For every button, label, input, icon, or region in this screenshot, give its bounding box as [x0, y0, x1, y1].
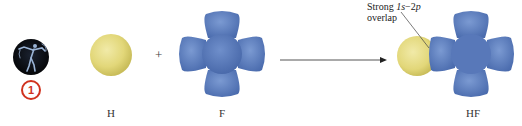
overlap-annotation: Strong 1s−2p overlap: [367, 1, 447, 23]
h-1s-orbital: [88, 32, 134, 78]
annotation-line2: overlap: [367, 12, 447, 23]
h-label: H: [103, 107, 119, 119]
hf-label: HF: [462, 107, 484, 119]
f-label: F: [214, 107, 230, 119]
annotation-line1: Strong 1s−2p: [367, 1, 447, 12]
step-number-badge: 1: [21, 80, 41, 100]
f-2p-orbital: [176, 8, 268, 100]
plus-operator: +: [155, 47, 162, 63]
golfer-icon: [12, 38, 50, 76]
reaction-arrow-icon: [280, 51, 388, 61]
